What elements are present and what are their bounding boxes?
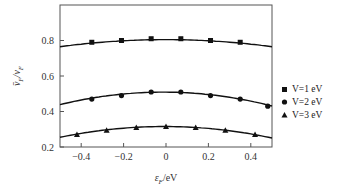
x-tick-label: −0.4: [72, 151, 90, 162]
fit-curves: [60, 40, 272, 138]
legend-item-v3: V=3 eV: [282, 110, 323, 120]
x-tick-label: −0.2: [115, 151, 133, 162]
svg-text:V=3 eV: V=3 eV: [292, 110, 323, 120]
svg-text:V=2 eV: V=2 eV: [292, 97, 323, 107]
square-marker-icon: [89, 40, 94, 45]
legend: V=1 eV V=2 eV V=3 eV: [282, 84, 323, 120]
x-axis-label: εF/eV: [155, 172, 178, 186]
circle-marker-icon: [149, 89, 154, 94]
y-tick-label: 0.8: [42, 35, 55, 46]
square-marker-icon: [208, 38, 213, 43]
circle-marker-icon: [282, 99, 287, 104]
circle-marker-icon: [119, 93, 124, 98]
y-axis-label: v̄F/vF: [11, 65, 25, 86]
chart: −0.4−0.200.20.40.20.40.60.8 εF/eV v̄F/vF…: [0, 0, 340, 187]
square-marker-icon: [119, 38, 124, 43]
circle-marker-icon: [238, 96, 243, 101]
x-tick-label: 0: [164, 151, 169, 162]
x-tick-label: 0.2: [202, 151, 215, 162]
axis-ticks: −0.4−0.200.20.40.20.40.60.8: [42, 35, 258, 162]
square-marker-icon: [178, 36, 183, 41]
circle-marker-icon: [208, 93, 213, 98]
square-marker-icon: [238, 40, 243, 45]
triangle-marker-icon: [282, 112, 288, 118]
square-marker-icon: [282, 87, 287, 92]
circle-marker-icon: [89, 96, 94, 101]
y-tick-label: 0.6: [42, 71, 55, 82]
legend-item-v2: V=2 eV: [282, 97, 323, 107]
circle-marker-icon: [265, 104, 270, 109]
y-tick-label: 0.2: [42, 142, 55, 153]
square-marker-icon: [149, 36, 154, 41]
circle-marker-icon: [178, 89, 183, 94]
legend-item-v1: V=1 eV: [282, 84, 323, 94]
y-tick-label: 0.4: [42, 106, 55, 117]
svg-text:V=1 eV: V=1 eV: [292, 84, 323, 94]
x-tick-label: 0.4: [245, 151, 258, 162]
data-markers: [74, 36, 270, 137]
